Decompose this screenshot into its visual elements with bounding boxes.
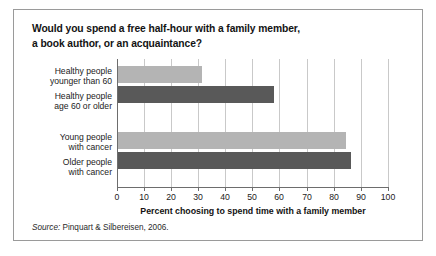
xtick-label-0: 0 — [104, 192, 130, 202]
source-text: Pinquart & Silbereisen, 2006. — [63, 223, 169, 232]
category-label-line-2: younger than 60 — [16, 76, 112, 86]
source-note: Source: Pinquart & Silbereisen, 2006. — [32, 223, 169, 232]
bar-healthy-age-60-or-older — [118, 86, 274, 103]
category-label-line-1: Healthy people — [16, 66, 112, 76]
category-label-line-2: age 60 or older — [16, 101, 112, 111]
bar-young-people-with-cancer — [118, 132, 346, 149]
xtick-label-10: 10 — [131, 192, 157, 202]
gridline-100 — [388, 59, 389, 187]
tickmark-20 — [171, 188, 172, 191]
xtick-label-40: 40 — [212, 192, 238, 202]
xtick-label-90: 90 — [348, 192, 374, 202]
figure-frame: Would you spend a free half-hour with a … — [13, 9, 423, 241]
xtick-label-60: 60 — [266, 192, 292, 202]
tickmark-0 — [117, 188, 118, 191]
chart-title-line-2: a book author, or an acquaintance? — [32, 37, 362, 52]
tickmark-100 — [388, 188, 389, 191]
category-label-line-1: Older people — [16, 157, 112, 167]
xtick-label-30: 30 — [185, 192, 211, 202]
source-label: Source: — [32, 223, 60, 232]
category-label-line-1: Young people — [16, 132, 112, 142]
tickmark-90 — [361, 188, 362, 191]
category-label-line-2: with cancer — [16, 142, 112, 152]
xtick-label-100: 100 — [375, 192, 401, 202]
category-label-healthy-age-60-or-older: Healthy people age 60 or older — [16, 91, 112, 112]
chart-title: Would you spend a free half-hour with a … — [32, 22, 362, 51]
tickmark-60 — [279, 188, 280, 191]
chart-title-line-1: Would you spend a free half-hour with a … — [32, 22, 362, 37]
xtick-label-50: 50 — [239, 192, 265, 202]
gridline-90 — [361, 59, 362, 187]
xtick-label-20: 20 — [158, 192, 184, 202]
tickmark-80 — [334, 188, 335, 191]
tickmark-30 — [198, 188, 199, 191]
x-axis-title: Percent choosing to spend time with a fa… — [117, 206, 389, 216]
plot-area — [117, 59, 388, 187]
bar-healthy-younger-than-60 — [118, 66, 202, 83]
tickmark-10 — [144, 188, 145, 191]
x-axis-line — [117, 187, 389, 188]
category-label-young-people-with-cancer: Young people with cancer — [16, 132, 112, 153]
category-label-older-people-with-cancer: Older people with cancer — [16, 157, 112, 178]
category-label-healthy-younger-than-60: Healthy people younger than 60 — [16, 66, 112, 87]
bar-older-people-with-cancer — [118, 152, 351, 169]
category-label-line-2: with cancer — [16, 167, 112, 177]
category-label-line-1: Healthy people — [16, 91, 112, 101]
xtick-label-80: 80 — [321, 192, 347, 202]
tickmark-40 — [225, 188, 226, 191]
tickmark-70 — [307, 188, 308, 191]
xtick-label-70: 70 — [294, 192, 320, 202]
tickmark-50 — [252, 188, 253, 191]
